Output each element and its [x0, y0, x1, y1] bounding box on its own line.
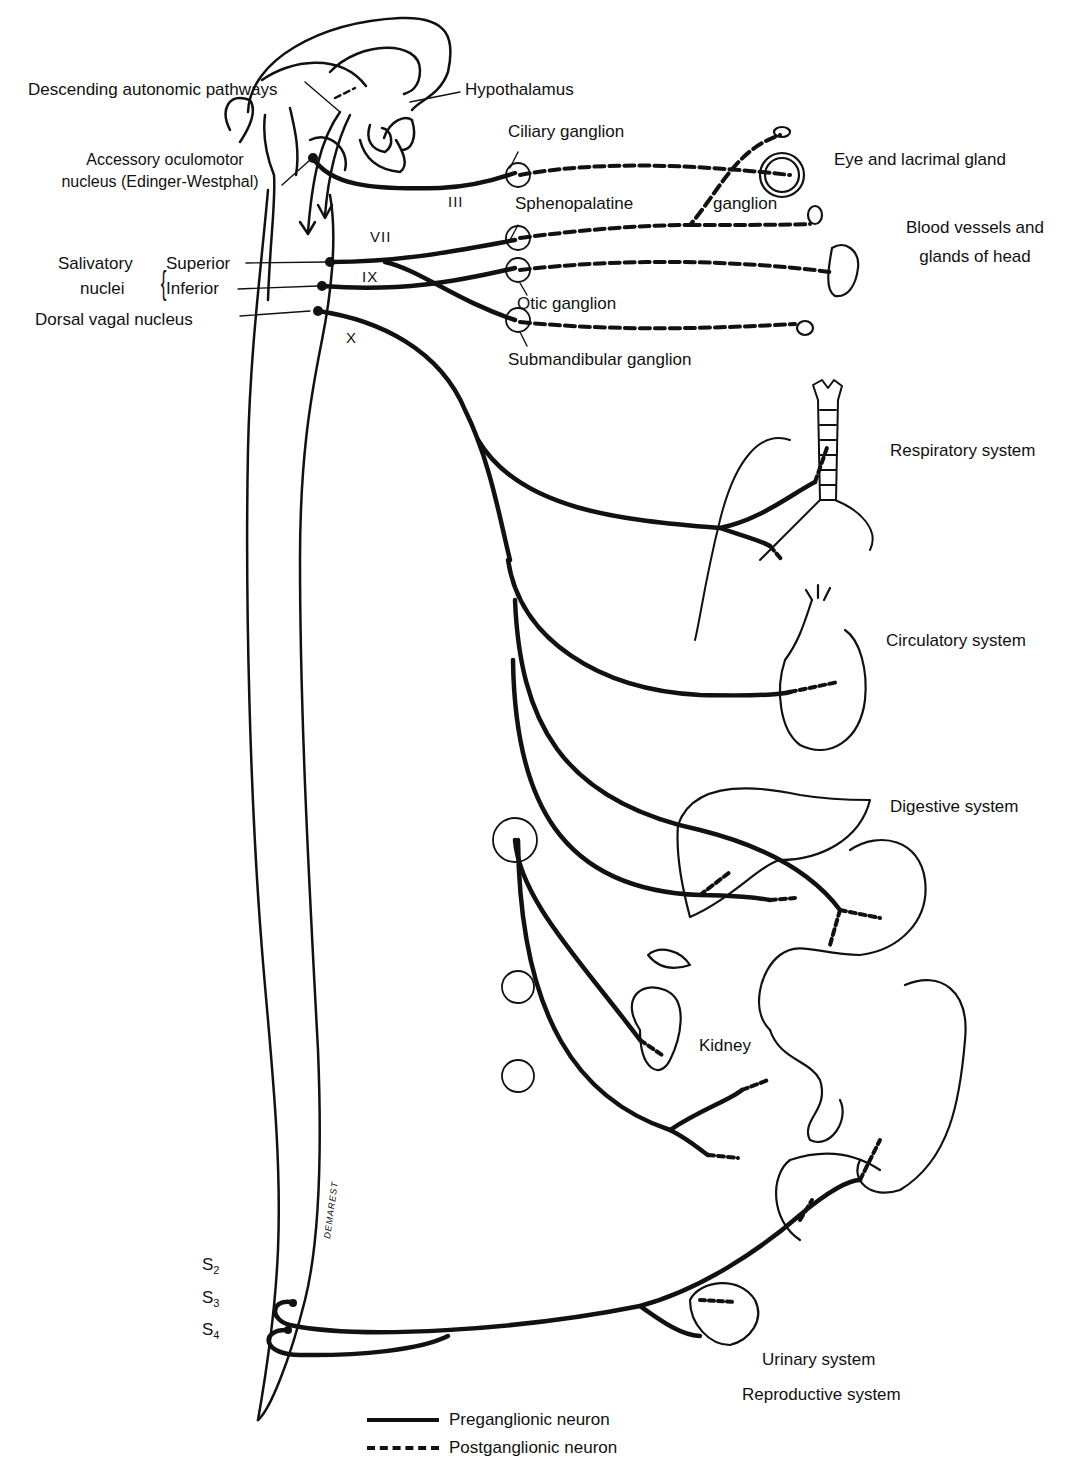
label-sphenopalatine-ganglion: ganglion [713, 194, 777, 214]
sacral-outflow [269, 1180, 860, 1355]
vagus-branches [478, 440, 840, 1155]
label-submandibular-ganglion: Submandibular ganglion [508, 350, 691, 370]
solid-line-icon [367, 1418, 439, 1422]
label-hypothalamus: Hypothalamus [465, 80, 574, 100]
lungs-trachea [695, 380, 873, 640]
nerve-ix: IX [362, 268, 378, 285]
label-urinary: Urinary system [762, 1350, 875, 1370]
label-respiratory: Respiratory system [890, 441, 1035, 461]
sacral-dots [284, 1299, 297, 1334]
label-s2: S2 [202, 1255, 219, 1280]
nerve-vii: VII [370, 228, 391, 245]
legend-preganglionic-label: Preganglionic neuron [449, 1410, 610, 1430]
nerve-x: X [346, 329, 357, 346]
dashed-line-icon [367, 1446, 439, 1450]
label-salivatory: Salivatory [58, 254, 133, 274]
label-otic-ganglion: Otic ganglion [517, 294, 616, 314]
label-blood-vessels-2: glands of head [890, 247, 1060, 267]
digestive-postganglionic [700, 872, 880, 945]
spinal-cord [247, 190, 333, 1420]
legend-postganglionic: Postganglionic neuron [367, 1438, 617, 1458]
preganglionic-cranial [313, 158, 515, 560]
label-sphenopalatine: Sphenopalatine [515, 194, 633, 214]
digestive-organs [678, 788, 966, 1240]
heart [780, 585, 866, 750]
descending-arrows [300, 82, 460, 234]
label-nuclei: nuclei [80, 279, 124, 299]
label-s3: S3 [202, 1288, 219, 1313]
nerve-iii: III [448, 193, 464, 210]
label-superior: Superior [166, 254, 230, 274]
label-dorsal-vagal: Dorsal vagal nucleus [35, 310, 193, 330]
label-accessory-oculomotor-1: Accessory oculomotor [50, 150, 280, 170]
label-reproductive: Reproductive system [742, 1385, 901, 1405]
cardiac-postganglionic [790, 682, 838, 692]
label-kidney: Kidney [699, 1036, 751, 1056]
label-accessory-oculomotor-2: nucleus (Edinger-Westphal) [35, 172, 285, 192]
legend-preganglionic: Preganglionic neuron [367, 1410, 610, 1430]
label-descending-pathways: Descending autonomic pathways [28, 80, 277, 100]
label-ciliary-ganglion: Ciliary ganglion [508, 122, 624, 142]
pelvic-postganglionic [700, 1300, 735, 1302]
label-inferior: Inferior [166, 279, 219, 299]
gut-postganglionic [708, 1080, 880, 1220]
label-s4: S4 [202, 1320, 219, 1345]
label-eye-lacrimal: Eye and lacrimal gland [834, 150, 1006, 170]
legend-postganglionic-label: Postganglionic neuron [449, 1438, 617, 1458]
label-blood-vessels-1: Blood vessels and [890, 218, 1060, 238]
label-circulatory: Circulatory system [886, 631, 1026, 651]
label-digestive: Digestive system [890, 797, 1018, 817]
